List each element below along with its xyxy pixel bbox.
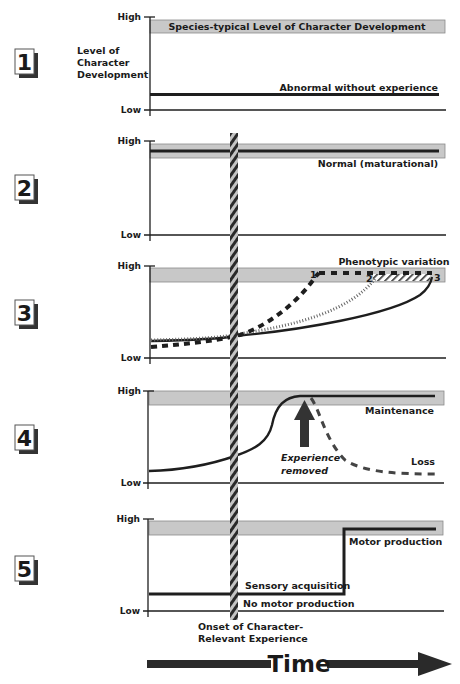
low-label: Low bbox=[121, 478, 141, 488]
y-axis-title: Character bbox=[77, 57, 130, 68]
high-label: High bbox=[118, 261, 141, 271]
phenotypic-variation-label: Phenotypic variation bbox=[338, 256, 449, 267]
species-typical-band bbox=[149, 391, 444, 405]
panel-number: 1 bbox=[17, 50, 32, 75]
y-axis-title: Level of bbox=[77, 45, 120, 56]
panel-number: 4 bbox=[17, 426, 32, 451]
experience-removed-arrow-icon bbox=[294, 400, 315, 447]
no-motor-production-label: No motor production bbox=[243, 598, 355, 609]
panel-number-box: 5 bbox=[15, 556, 38, 585]
motor-production-label: Motor production bbox=[349, 536, 443, 547]
maintenance-label: Maintenance bbox=[365, 405, 434, 416]
panel-4: 4 High Low Maintenance Loss Experience r… bbox=[15, 386, 444, 489]
y-axis-title: Development bbox=[77, 69, 149, 80]
loss-label: Loss bbox=[411, 456, 435, 467]
low-label: Low bbox=[121, 353, 141, 363]
low-label: Low bbox=[121, 105, 141, 115]
abnormal-label: Abnormal without experience bbox=[279, 82, 438, 93]
panel-number: 5 bbox=[17, 557, 32, 582]
trajectory-3-solid bbox=[151, 277, 432, 341]
onset-of-experience-bar bbox=[230, 133, 238, 620]
high-label: High bbox=[118, 136, 141, 146]
low-label: Low bbox=[120, 606, 140, 616]
experience-removed-label: Experience bbox=[281, 452, 341, 463]
normal-label: Normal (maturational) bbox=[318, 158, 438, 169]
sensory-acquisition-label: Sensory acquisition bbox=[245, 580, 351, 591]
marker-2: 2 bbox=[366, 273, 373, 284]
panel-number-box: 3 bbox=[15, 300, 38, 329]
panel-5: 5 High Low Motor production Sensory acqu… bbox=[15, 514, 444, 617]
panel-number: 3 bbox=[17, 301, 32, 326]
developmental-trajectories-diagram: 1 Level of Character Development High Lo… bbox=[0, 0, 460, 684]
onset-label: Onset of Character- bbox=[198, 621, 303, 632]
panel-number: 2 bbox=[17, 176, 32, 201]
marker-3: 3 bbox=[434, 272, 441, 283]
variation-hatch bbox=[373, 274, 430, 281]
panel-1: 1 Level of Character Development High Lo… bbox=[15, 12, 446, 116]
panel-number-box: 4 bbox=[15, 425, 38, 454]
onset-label: Relevant Experience bbox=[198, 633, 308, 644]
time-label: Time bbox=[267, 651, 330, 677]
panel-number-box: 2 bbox=[15, 175, 38, 204]
high-label: High bbox=[118, 12, 141, 22]
low-label: Low bbox=[121, 230, 141, 240]
marker-1: 1 bbox=[310, 269, 317, 280]
band-label: Species-typical Level of Character Devel… bbox=[168, 21, 426, 32]
high-label: High bbox=[118, 386, 141, 396]
experience-removed-label: removed bbox=[281, 465, 328, 476]
panel-number-box: 1 bbox=[15, 49, 38, 78]
high-label: High bbox=[117, 514, 140, 524]
trajectory-2-dotted bbox=[151, 279, 375, 340]
